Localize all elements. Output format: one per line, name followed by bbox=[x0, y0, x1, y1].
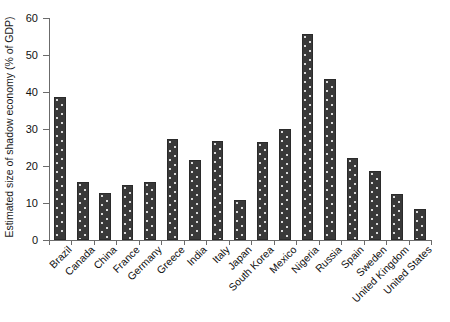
bar[interactable] bbox=[234, 200, 246, 240]
x-axis-line bbox=[49, 240, 431, 241]
x-axis-tick-labels: BrazilCanadaChinaFranceGermanyGreeceIndi… bbox=[49, 244, 450, 322]
bar[interactable] bbox=[414, 209, 426, 240]
bar[interactable] bbox=[302, 34, 314, 240]
bar[interactable] bbox=[77, 182, 89, 240]
bar[interactable] bbox=[122, 185, 134, 240]
bar[interactable] bbox=[167, 139, 179, 240]
bar[interactable] bbox=[369, 171, 381, 240]
x-tick-label: India bbox=[185, 244, 209, 268]
bar[interactable] bbox=[189, 160, 201, 240]
y-tick-label: 10 bbox=[12, 198, 38, 209]
y-tick-label: 60 bbox=[12, 13, 38, 24]
y-tick-label: 20 bbox=[12, 161, 38, 172]
y-tick-label: 40 bbox=[12, 87, 38, 98]
bar[interactable] bbox=[279, 129, 291, 240]
bar-chart: Estimated size of shadow economy (% of G… bbox=[0, 0, 450, 322]
y-tick-label: 30 bbox=[12, 124, 38, 135]
y-tick-label: 0 bbox=[12, 235, 38, 246]
bar[interactable] bbox=[391, 194, 403, 240]
bar[interactable] bbox=[54, 97, 66, 240]
plot-area bbox=[49, 18, 431, 240]
bar[interactable] bbox=[324, 79, 336, 240]
bar[interactable] bbox=[99, 193, 111, 240]
y-tick-label: 50 bbox=[12, 50, 38, 61]
bar[interactable] bbox=[144, 182, 156, 240]
bar[interactable] bbox=[257, 142, 269, 240]
bars-layer bbox=[49, 18, 431, 240]
bar[interactable] bbox=[212, 141, 224, 240]
bar[interactable] bbox=[347, 158, 359, 240]
